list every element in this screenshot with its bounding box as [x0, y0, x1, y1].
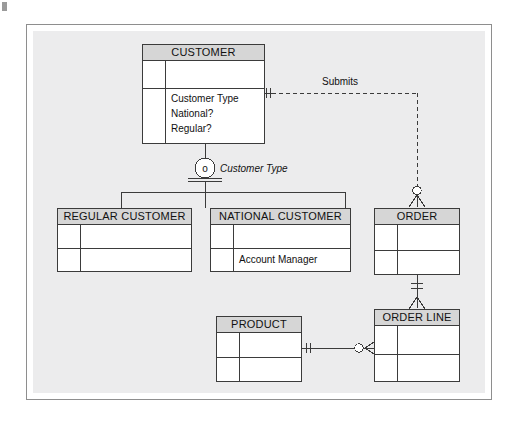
entity-order-line-body	[375, 326, 459, 382]
entity-customer-body: Customer Type National? Regular?	[143, 61, 264, 144]
entity-regular-customer-row-divider	[58, 248, 191, 249]
entity-customer[interactable]: CUSTOMER Customer Type National? Regular…	[142, 44, 265, 144]
entity-customer-attribute-1: National?	[171, 108, 213, 120]
entity-order-row-divider	[375, 250, 459, 251]
entity-national-customer-row-divider	[211, 248, 350, 249]
entity-regular-customer-title: REGULAR CUSTOMER	[58, 209, 191, 225]
entity-order-line-title: ORDER LINE	[375, 310, 459, 326]
entity-national-customer-attribute-0: Account Manager	[239, 254, 317, 266]
entity-regular-customer-body	[58, 225, 191, 272]
entity-customer-key-column-divider	[165, 61, 166, 144]
entity-national-customer[interactable]: NATIONAL CUSTOMER Account Manager	[210, 208, 351, 272]
subtype-rule-symbol: o	[199, 164, 211, 174]
entity-product[interactable]: PRODUCT	[216, 316, 302, 382]
entity-customer-title: CUSTOMER	[143, 45, 264, 61]
entity-order[interactable]: ORDER	[374, 208, 460, 275]
entity-product-title: PRODUCT	[217, 317, 301, 333]
entity-order-line-row-divider	[375, 354, 459, 355]
entity-national-customer-title: NATIONAL CUSTOMER	[211, 209, 350, 225]
entity-customer-row-divider	[143, 88, 264, 89]
page-corner-mark	[2, 2, 7, 11]
entity-order-line[interactable]: ORDER LINE	[374, 309, 460, 382]
entity-customer-attribute-2: Regular?	[171, 123, 212, 135]
entity-product-row-divider	[217, 357, 301, 358]
entity-product-body	[217, 333, 301, 382]
entity-order-title: ORDER	[375, 209, 459, 225]
entity-national-customer-body: Account Manager	[211, 225, 350, 272]
subtype-discriminator-label: Customer Type	[220, 163, 288, 174]
entity-regular-customer[interactable]: REGULAR CUSTOMER	[57, 208, 192, 272]
diagram-root: CUSTOMER Customer Type National? Regular…	[0, 0, 513, 426]
entity-order-body	[375, 225, 459, 275]
entity-customer-attribute-0: Customer Type	[171, 93, 239, 105]
relationship-label-submits: Submits	[322, 76, 358, 87]
